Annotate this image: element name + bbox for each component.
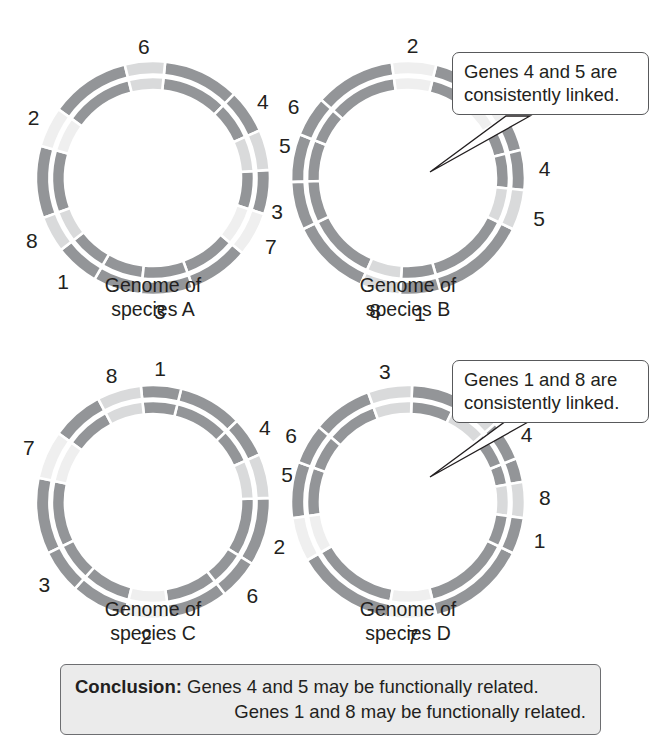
conclusion-box: Conclusion: Genes 4 and 5 may be functio… xyxy=(60,664,601,735)
genome-d-filler-4-band-2 xyxy=(307,467,325,516)
conclusion-text-1: Genes 4 and 5 may be functionally relate… xyxy=(182,676,539,697)
gene-segment-1-genome-c-band-1[interactable] xyxy=(141,385,182,402)
gene-label-7-genome-c: 7 xyxy=(23,436,35,457)
gene-label-6-genome-b: 6 xyxy=(288,96,300,117)
gene-label-5-genome-b: 5 xyxy=(533,208,545,229)
gene-label-6-genome-a: 6 xyxy=(138,36,150,57)
genome-a-filler-1-band-2 xyxy=(237,171,254,209)
gene-label-8-genome-d: 8 xyxy=(539,487,551,508)
gene-label-3-genome-c: 3 xyxy=(39,573,51,594)
genome-a-filler-4-band-2 xyxy=(52,150,70,212)
gene-label-2-genome-a: 2 xyxy=(28,107,40,128)
gene-label-2-genome-d: 2 xyxy=(274,536,286,557)
gene-label-6-genome-d: 6 xyxy=(285,424,297,445)
gene-label-3-genome-d: 3 xyxy=(379,361,391,382)
gene-segment-6-genome-a-band-1[interactable] xyxy=(125,61,166,78)
callout-genes-4-5: Genes 4 and 5 are consistently linked. xyxy=(452,52,649,115)
gene-segment-1-genome-c-band-2[interactable] xyxy=(142,401,177,417)
genome-caption-b: Genome of species B xyxy=(258,273,558,321)
conclusion-line-2: Genes 1 and 8 may be functionally relate… xyxy=(75,699,586,724)
gene-label-1-genome-d: 1 xyxy=(534,529,546,550)
gene-label-1-genome-c: 1 xyxy=(154,358,166,379)
callout-pointer-b xyxy=(420,110,540,190)
gene-segment-2-genome-b-band-1[interactable] xyxy=(392,61,437,78)
gene-label-3-genome-b: 3 xyxy=(271,200,283,221)
genome-caption-d: Genome of species D xyxy=(258,597,558,645)
gene-label-8-genome-a: 8 xyxy=(26,229,38,250)
gene-label-2-genome-b: 2 xyxy=(407,35,419,56)
callout-pointer-d xyxy=(420,415,540,495)
gene-segment-6-genome-a-band-2[interactable] xyxy=(129,77,164,93)
gene-label-8-genome-c: 8 xyxy=(106,364,118,385)
gene-label-4-genome-b: 4 xyxy=(539,158,551,179)
callout-genes-1-8: Genes 1 and 8 are consistently linked. xyxy=(452,360,649,423)
conclusion-line-1: Conclusion: Genes 4 and 5 may be functio… xyxy=(75,674,586,699)
conclusion-label: Conclusion: xyxy=(75,676,182,697)
gene-segment-2-genome-b-band-2[interactable] xyxy=(394,77,432,93)
